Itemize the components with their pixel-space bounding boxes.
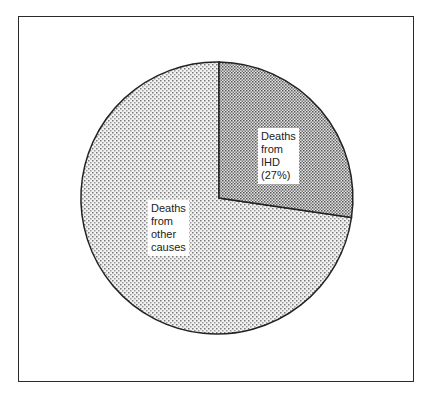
label-ihd-line: from <box>261 143 296 156</box>
label-other-line: from <box>151 215 186 228</box>
label-ihd-line: (27%) <box>261 169 296 182</box>
label-other-line: causes <box>151 241 186 254</box>
label-other-line: Deaths <box>151 202 186 215</box>
label-ihd-line: IHD <box>261 156 296 169</box>
label-ihd: Deaths from IHD (27%) <box>258 128 299 184</box>
label-ihd-line: Deaths <box>261 130 296 143</box>
label-other-line: other <box>151 228 186 241</box>
label-other-causes: Deaths from other causes <box>148 200 189 256</box>
pie-chart <box>0 0 432 401</box>
